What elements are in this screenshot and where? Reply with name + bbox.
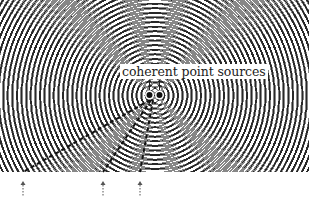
wave-interference-pattern: [0, 0, 311, 200]
sources-label: coherent point sources: [120, 64, 268, 79]
